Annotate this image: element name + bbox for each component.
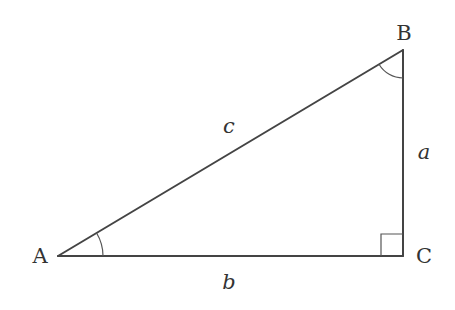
side-label-b: b bbox=[222, 270, 235, 294]
angle-arc-B bbox=[379, 64, 403, 78]
side-label-c: c bbox=[223, 114, 235, 138]
right-angle-mark-C bbox=[381, 234, 403, 256]
vertex-label-B: B bbox=[396, 21, 411, 45]
vertex-label-C: C bbox=[416, 244, 432, 268]
angle-arc-A bbox=[97, 233, 103, 256]
side-c-hypotenuse bbox=[58, 50, 403, 256]
vertex-label-A: A bbox=[31, 244, 48, 268]
right-triangle-diagram: A B C c a b bbox=[0, 0, 455, 310]
side-label-a: a bbox=[418, 140, 431, 164]
